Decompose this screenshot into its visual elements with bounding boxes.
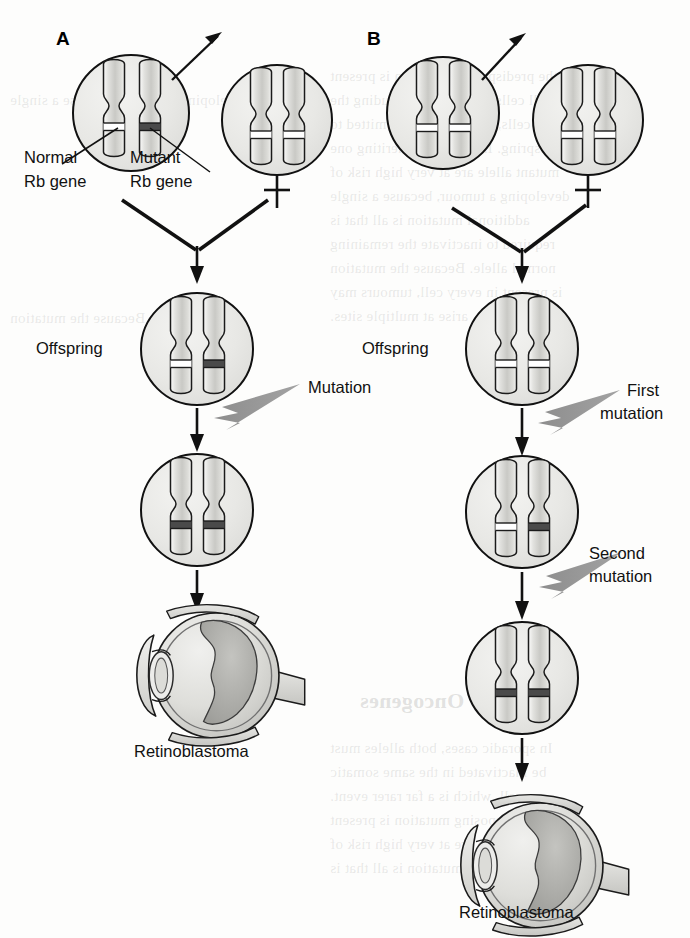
figure-canvas: the predisposing mutation is present in … — [0, 0, 690, 938]
ghost-line: In sporadic cases, both alleles must — [330, 740, 552, 757]
panel-b-parent-cell-1 — [387, 57, 499, 169]
panel-a-mutated-cell — [141, 454, 253, 566]
panel-b-callout-arrow — [482, 33, 526, 80]
panel-b-second-mutation-label-line2: mutation — [589, 567, 652, 585]
ghost-line: arise at multiple sites. — [330, 308, 468, 325]
ghost-line: additional mutation is all that is — [330, 212, 530, 229]
ghost-line: the predisposing mutation is present — [330, 68, 557, 85]
panel-a-parent-cell-2 — [222, 65, 332, 175]
ghost-line: developing a tumour, because a single — [10, 92, 250, 109]
ghost-line: additional mutation is all that is — [330, 860, 530, 877]
panel-a-step-arrow-2 — [190, 570, 204, 612]
ghost-line: offspring. Individuals inheriting one — [330, 140, 558, 157]
panel-b-step-arrow-1 — [515, 408, 529, 456]
panel-b-group — [387, 33, 643, 936]
panel-a-offspring-cell — [141, 293, 253, 405]
ghost-line: mutant allele are at very high risk of — [330, 164, 559, 181]
panel-b-offspring-label: Offspring — [362, 339, 429, 358]
panel-a-mutation-arrow-icon — [214, 384, 300, 430]
panel-b-offspring-cell — [466, 293, 578, 405]
ghost-heading: Oncogenes — [360, 688, 464, 714]
panel-a-step-arrow-1 — [190, 408, 204, 452]
ghost-line: be inactivated in the same somatic — [330, 764, 546, 781]
panel-letter-b: B — [367, 28, 381, 50]
panel-b-mating-lines — [452, 205, 586, 284]
panel-b-step-arrow-2 — [515, 572, 529, 620]
normal-rb-gene-label-line1: Normal — [24, 148, 77, 167]
panel-a-callout-arrow — [172, 32, 222, 80]
panel-a-mating-lines — [122, 200, 268, 284]
mutant-rb-gene-label-line1: Mutant — [130, 148, 180, 167]
ghost-line: in all cells of the body, including the — [330, 92, 561, 109]
ghost-line: developing a tumour, because a single — [330, 188, 570, 205]
ghost-line: cell, which is a far rarer event. — [330, 788, 522, 805]
ghost-line: is present in every cell, tumours may — [330, 284, 562, 301]
normal-rb-gene-label-line2: Rb gene — [24, 172, 86, 191]
ghost-line: mutant allele are at very high risk of — [330, 836, 559, 853]
panel-b-second-mutation-label-line1: Second — [589, 544, 645, 562]
panel-a-group — [62, 32, 332, 746]
ghost-line: required to inactivate the remaining — [330, 236, 555, 253]
panel-a-mutation-label: Mutation — [308, 378, 371, 397]
panel-letter-a: A — [56, 28, 70, 50]
panel-a-cross-symbol — [264, 176, 290, 208]
panel-b-first-mutation-label-line2: mutation — [600, 404, 663, 422]
panel-b-step-arrow-3 — [515, 738, 529, 782]
ghost-line: the predisposing mutation is present — [330, 812, 557, 829]
diagram-svg — [0, 0, 690, 938]
panel-b-parent-cell-2 — [533, 65, 643, 175]
panel-b-first-mutated-cell — [466, 456, 578, 568]
panel-b-second-mutated-cell — [466, 622, 578, 734]
ghost-line: normal allele. Because the mutation — [330, 260, 556, 277]
ghost-line: normal allele. Because the mutation — [10, 310, 236, 327]
panel-a-outcome-label: Retinoblastoma — [134, 742, 249, 761]
panel-b-cross-symbol — [575, 176, 601, 208]
panel-a-offspring-label: Offspring — [36, 339, 103, 358]
panel-b-outcome-label: Retinoblastoma — [459, 903, 574, 922]
panel-b-first-mutation-label-line1: First — [627, 381, 659, 399]
ghost-line: germ cells, and may be transmitted to — [330, 116, 566, 133]
panel-a-eye — [137, 605, 305, 746]
mutant-rb-gene-label-line2: Rb gene — [130, 172, 192, 191]
